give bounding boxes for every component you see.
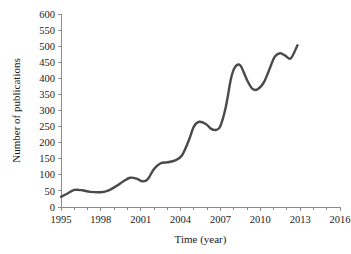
x-tick-label: 1995 [51, 214, 72, 225]
y-tick-label: 600 [39, 9, 55, 20]
x-tick-label: 2007 [210, 214, 231, 225]
y-tick-label: 550 [39, 25, 55, 36]
data-series-line [61, 45, 297, 197]
x-tick-label: 2013 [290, 214, 311, 225]
y-tick-label: 150 [39, 153, 55, 164]
y-axis-title: Number of publications [10, 58, 22, 162]
chart-canvas: 0501001502002503003504004505005506001995… [0, 0, 351, 254]
x-tick-label: 2010 [250, 214, 271, 225]
y-tick-label: 500 [39, 41, 55, 52]
y-tick-label: 50 [45, 186, 56, 197]
publications-line-chart: 0501001502002503003504004505005506001995… [0, 0, 351, 254]
y-tick-label: 400 [39, 73, 55, 84]
y-tick-label: 450 [39, 57, 55, 68]
x-tick-label: 2001 [130, 214, 151, 225]
y-tick-label: 100 [39, 169, 55, 180]
x-tick-label: 1998 [90, 214, 111, 225]
y-tick-label: 350 [39, 89, 55, 100]
y-tick-label: 250 [39, 121, 55, 132]
y-tick-label: 300 [39, 105, 55, 116]
y-tick-label: 0 [50, 202, 55, 213]
x-tick-label: 2004 [170, 214, 192, 225]
y-tick-label: 200 [39, 137, 55, 148]
x-axis-title: Time (year) [175, 233, 227, 246]
x-tick-label: 2016 [330, 214, 351, 225]
